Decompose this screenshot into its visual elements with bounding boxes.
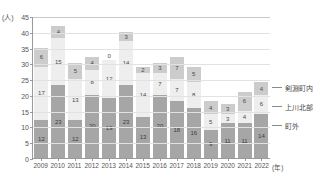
- bar-value-label: 7: [175, 87, 178, 93]
- gridline: [33, 33, 270, 34]
- bar-segment[interactable]: 12: [34, 120, 48, 158]
- legend-item[interactable]: 上川北部: [272, 97, 324, 116]
- bar-value-label: 16: [190, 130, 197, 136]
- gridline: [33, 49, 270, 50]
- legend-item-label: 上川北部: [285, 102, 313, 112]
- bar-column[interactable]: 01219: [102, 17, 116, 158]
- bar-value-label: 4: [209, 105, 212, 111]
- x-axis-tick-mark: [75, 158, 76, 161]
- x-axis-tick-label: 2011: [68, 162, 82, 169]
- x-axis-tick-label: 2009: [34, 162, 48, 169]
- bar-segment[interactable]: 20: [85, 95, 99, 158]
- legend-leader-line-icon: [272, 106, 282, 107]
- bar-value-label: 0: [107, 53, 110, 59]
- y-axis-tick-mark: [30, 33, 33, 34]
- bar-value-label: 12: [72, 136, 79, 142]
- legend-item[interactable]: 剣淵町内: [272, 78, 324, 97]
- bar-value-label: 23: [55, 119, 62, 125]
- bar-value-label: 12: [106, 76, 113, 82]
- bar-column[interactable]: 41523: [51, 17, 65, 158]
- bar-column[interactable]: 31423: [119, 17, 133, 158]
- y-axis-tick-label: 40: [21, 29, 29, 36]
- x-axis-tick-label: 2015: [136, 162, 150, 169]
- bar-value-label: 2: [141, 67, 144, 73]
- bar-segment[interactable]: 7: [170, 57, 184, 79]
- x-axis-unit-label: (年): [272, 162, 283, 172]
- y-axis-tick-label: 0: [25, 156, 29, 163]
- x-axis-tick-label: 2020: [221, 162, 235, 169]
- bar-segment[interactable]: 20: [153, 95, 167, 158]
- legend-leader-line-icon: [272, 125, 282, 126]
- bar-value-label: 3: [226, 116, 229, 122]
- bar-column[interactable]: 3311: [221, 17, 235, 158]
- gridline: [33, 112, 270, 113]
- x-axis-tick-mark: [177, 158, 178, 161]
- bar-segment[interactable]: 12: [102, 60, 116, 98]
- bar-column[interactable]: 459: [204, 17, 218, 158]
- bar-value-label: 6: [260, 101, 263, 107]
- bar-value-label: 13: [140, 134, 147, 140]
- x-axis-tick-label: 2018: [187, 162, 201, 169]
- bar-value-label: 20: [157, 123, 164, 129]
- bar-column[interactable]: 4614: [254, 17, 268, 158]
- bar-value-label: 5: [74, 68, 77, 74]
- bar-column[interactable]: 4820: [85, 17, 99, 158]
- bar-value-label: 7: [175, 65, 178, 71]
- bar-column[interactable]: 51312: [68, 17, 82, 158]
- bar-segment[interactable]: 18: [170, 101, 184, 158]
- bar-segment[interactable]: 11: [238, 123, 252, 158]
- bar-segment[interactable]: 7: [153, 73, 167, 95]
- bar-group: 6171241523513124820012193142321413372077…: [33, 17, 270, 158]
- bar-value-label: 3: [158, 65, 161, 71]
- x-axis-tick-mark: [58, 158, 59, 161]
- bar-column[interactable]: 61712: [34, 17, 48, 158]
- bar-column[interactable]: 3720: [153, 17, 167, 158]
- bar-segment[interactable]: 13: [68, 79, 82, 120]
- bar-column[interactable]: 21413: [136, 17, 150, 158]
- bar-value-label: 7: [158, 81, 161, 87]
- bar-segment[interactable]: 11: [221, 123, 235, 158]
- bar-segment[interactable]: 13: [136, 117, 150, 158]
- stacked-bar-chart: (人) 617124152351312482001219314232141337…: [0, 0, 324, 187]
- bar-segment[interactable]: 12: [68, 120, 82, 158]
- legend-item[interactable]: 町外: [272, 116, 324, 135]
- bar-value-label: 4: [260, 86, 263, 92]
- bar-column[interactable]: 6411: [238, 17, 252, 158]
- x-axis-tick-mark: [126, 158, 127, 161]
- x-axis-tick-label: 2022: [255, 162, 269, 169]
- y-axis-tick-mark: [30, 96, 33, 97]
- x-axis-tick-mark: [41, 158, 42, 161]
- bar-value-label: 6: [243, 98, 246, 104]
- bar-segment[interactable]: 5: [68, 63, 82, 79]
- bar-value-label: 6: [40, 54, 43, 60]
- bar-segment[interactable]: 6: [238, 92, 252, 111]
- x-axis-tick-label: 2012: [85, 162, 99, 169]
- y-axis-tick-mark: [30, 49, 33, 50]
- x-axis-tick-mark: [245, 158, 246, 161]
- bar-segment[interactable]: 8: [85, 70, 99, 95]
- x-axis-tick-mark: [228, 158, 229, 161]
- bar-column[interactable]: 7718: [170, 17, 184, 158]
- bar-value-label: 5: [209, 119, 212, 125]
- y-axis-tick-label: 25: [21, 77, 29, 84]
- bar-segment[interactable]: 15: [51, 38, 65, 85]
- bar-segment[interactable]: 7: [170, 79, 184, 101]
- gridline: [33, 96, 270, 97]
- bar-segment[interactable]: 14: [254, 114, 268, 158]
- x-axis-tick-mark: [211, 158, 212, 161]
- y-axis-tick-mark: [30, 64, 33, 65]
- legend-item-label: 剣淵町内: [285, 83, 313, 93]
- bar-segment[interactable]: 3: [221, 114, 235, 123]
- plot-area: 6171241523513124820012193142321413372077…: [32, 17, 270, 159]
- y-axis-tick-label: 35: [21, 45, 29, 52]
- x-axis-tick-mark: [160, 158, 161, 161]
- bar-segment[interactable]: 16: [187, 108, 201, 158]
- bar-value-label: 23: [123, 119, 130, 125]
- bar-segment[interactable]: 4: [254, 82, 268, 95]
- bar-column[interactable]: 5816: [187, 17, 201, 158]
- x-axis-tick-mark: [109, 158, 110, 161]
- x-axis-labels: 2009201020112012201320142015201620172018…: [32, 162, 270, 169]
- bar-value-label: 12: [38, 136, 45, 142]
- y-axis-tick-mark: [30, 112, 33, 113]
- bar-value-label: 4: [243, 114, 246, 120]
